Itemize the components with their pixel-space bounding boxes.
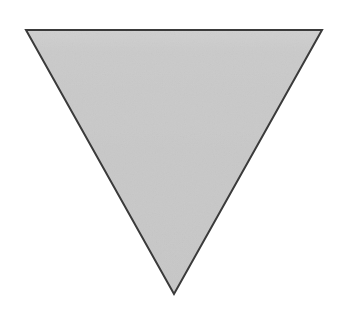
- triangle-figure-svg: [0, 0, 348, 319]
- figure-canvas: Inverted triangle: [0, 0, 348, 319]
